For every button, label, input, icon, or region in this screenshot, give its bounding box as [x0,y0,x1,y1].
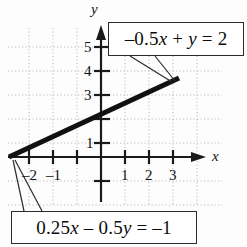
equation-callout-bottom: 0.25x – 0.5y = –1 [11,211,197,244]
y-tick-label-1: 1 [86,136,94,151]
equation-callout-top-text: –0.5x + y = 2 [125,28,228,50]
x-tick-label-2: 2 [145,168,153,183]
y-tick-label-3: 3 [84,88,92,103]
grid-horizontal [8,47,222,205]
graph-figure: y x –2 –1 1 2 3 5 4 3 1 –0.5x + y = 2 0.… [0,0,247,247]
x-tick-label-3: 3 [169,168,177,183]
equation-callout-bottom-text: 0.25x – 0.5y = –1 [36,217,172,239]
callout-top-leaders [130,56,175,82]
x-tick-label-neg2: –2 [22,168,37,183]
x-axis-label: x [212,149,219,164]
y-axis-label: y [91,2,98,17]
plotted-line [9,78,179,157]
x-axis [8,152,206,162]
equation-callout-top: –0.5x + y = 2 [108,22,244,56]
x-tick-label-neg1: –1 [46,168,61,183]
y-tick-label-5: 5 [84,40,92,55]
x-tick-label-1: 1 [121,168,129,183]
y-tick-label-4: 4 [84,64,92,79]
